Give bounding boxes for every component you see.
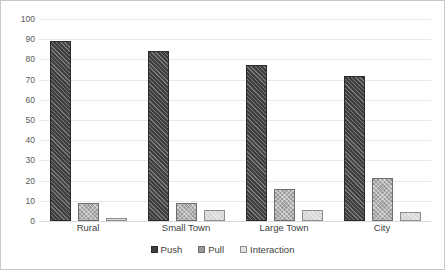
- y-tick-label: 90: [26, 35, 35, 44]
- y-tick-label: 100: [21, 15, 35, 24]
- bar-push: [50, 41, 71, 221]
- legend-item-pull[interactable]: Pull: [198, 245, 224, 255]
- legend-label: Interaction: [250, 245, 294, 255]
- bar-push: [344, 76, 365, 221]
- y-tick-label: 20: [26, 176, 35, 185]
- bar-interaction: [204, 210, 225, 221]
- x-tick-label: Large Town: [235, 223, 333, 233]
- legend-label: Push: [161, 245, 183, 255]
- legend-label: Pull: [208, 245, 224, 255]
- bar-group: [39, 19, 137, 221]
- y-tick-label: 10: [26, 197, 35, 206]
- bar-push: [148, 51, 169, 221]
- bar-pull: [372, 178, 393, 221]
- bar-pull: [176, 203, 197, 221]
- bar-push: [246, 65, 267, 221]
- bar-interaction: [400, 212, 421, 221]
- bar-group: [333, 19, 431, 221]
- plot-area: [39, 19, 431, 221]
- bar-pull: [78, 203, 99, 221]
- bar-group: [235, 19, 333, 221]
- bar-group: [137, 19, 235, 221]
- bar-chart-figure: 1009080706050403020100 RuralSmall TownLa…: [0, 0, 445, 270]
- x-tick-label: City: [333, 223, 431, 233]
- y-tick-label: 60: [26, 96, 35, 105]
- y-tick-label: 30: [26, 156, 35, 165]
- bar-interaction: [302, 210, 323, 221]
- y-tick-label: 0: [30, 217, 35, 226]
- legend-swatch-icon: [151, 246, 158, 253]
- legend: PushPullInteraction: [1, 245, 444, 255]
- legend-swatch-icon: [240, 246, 247, 253]
- x-axis: RuralSmall TownLarge TownCity: [39, 223, 431, 233]
- legend-item-interaction[interactable]: Interaction: [240, 245, 294, 255]
- bars-layer: [39, 19, 431, 221]
- y-axis: 1009080706050403020100: [1, 19, 35, 221]
- y-tick-label: 40: [26, 136, 35, 145]
- bar-pull: [274, 189, 295, 221]
- y-tick-label: 50: [26, 116, 35, 125]
- legend-item-push[interactable]: Push: [151, 245, 183, 255]
- x-tick-label: Rural: [39, 223, 137, 233]
- x-tick-label: Small Town: [137, 223, 235, 233]
- bar-interaction: [106, 218, 127, 221]
- y-tick-label: 70: [26, 75, 35, 84]
- legend-swatch-icon: [198, 246, 205, 253]
- y-tick-label: 80: [26, 55, 35, 64]
